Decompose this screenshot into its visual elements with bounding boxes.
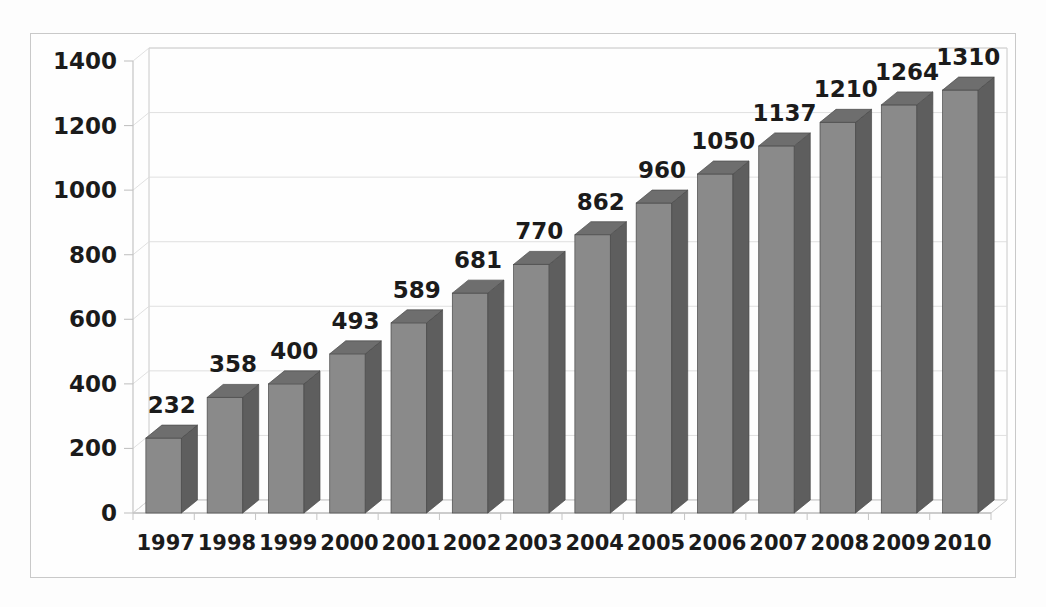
- bar-side-face: [181, 425, 197, 513]
- bar-front-face: [330, 354, 366, 513]
- bar-side-face: [427, 310, 443, 513]
- x-axis-category-label: 2001: [382, 531, 440, 555]
- x-axis-category-label: 2007: [749, 531, 807, 555]
- bar-column[interactable]: [820, 109, 872, 513]
- chart-plot-area: 0200400600800100012001400199719981999200…: [31, 34, 1015, 577]
- bar-side-face: [304, 371, 320, 513]
- bar-front-face: [391, 323, 427, 513]
- bar-column[interactable]: [943, 77, 995, 513]
- x-axis-category-label: 2008: [811, 531, 869, 555]
- x-axis-category-label: 2000: [320, 531, 378, 555]
- bar-front-face: [881, 105, 917, 513]
- bar-value-label: 1050: [691, 128, 755, 154]
- bar-side-face: [733, 161, 749, 513]
- bar-value-label: 960: [638, 157, 686, 183]
- x-axis-category-label: 2005: [627, 531, 685, 555]
- chart-floor: [133, 500, 1007, 513]
- y-axis-tick-label: 600: [69, 306, 117, 332]
- bar-value-label: 862: [577, 189, 625, 215]
- bar-front-face: [697, 174, 733, 513]
- bar-side-face: [978, 77, 994, 513]
- x-axis-tick-labels: 1997199819992000200120022003200420052006…: [133, 513, 992, 555]
- bar-value-label: 1310: [936, 44, 1000, 70]
- y-axis-tick-label: 1400: [53, 48, 117, 74]
- bar-side-face: [856, 109, 872, 513]
- bar-side-face: [365, 341, 381, 513]
- x-axis-category-label: 1999: [259, 531, 317, 555]
- y-axis-tick-label: 1000: [53, 177, 117, 203]
- bar-column[interactable]: [575, 222, 627, 513]
- bar-value-label: 400: [270, 338, 318, 364]
- bar-value-label: 1210: [814, 76, 878, 102]
- bar-front-face: [452, 293, 488, 513]
- bar-front-face: [636, 203, 672, 513]
- bar-value-label: 493: [331, 308, 379, 334]
- bar-column[interactable]: [697, 161, 749, 513]
- y-axis-tick-label: 400: [69, 371, 117, 397]
- bar-side-face: [243, 384, 259, 513]
- bar-side-face: [917, 92, 933, 513]
- bar-front-face: [268, 384, 304, 513]
- bar-value-label: 1137: [752, 100, 816, 126]
- axis-depth-connector: [133, 177, 149, 190]
- bar-column[interactable]: [452, 280, 504, 513]
- bar-front-face: [943, 90, 979, 513]
- bar-column[interactable]: [881, 92, 933, 513]
- x-axis-category-label: 2004: [565, 531, 623, 555]
- bar-column[interactable]: [330, 341, 382, 513]
- bar-side-face: [549, 251, 565, 513]
- y-axis-tick-label: 800: [69, 242, 117, 268]
- bar-column[interactable]: [268, 371, 320, 513]
- bar-column[interactable]: [514, 251, 566, 513]
- bar-side-face: [672, 190, 688, 513]
- bar-side-face: [488, 280, 504, 513]
- axis-depth-connector: [133, 242, 149, 255]
- x-axis-category-label: 2002: [443, 531, 501, 555]
- y-axis-tick-label: 1200: [53, 113, 117, 139]
- bar-front-face: [207, 397, 243, 513]
- bar-value-label: 770: [515, 218, 563, 244]
- bar-column[interactable]: [207, 384, 259, 513]
- x-axis-category-label: 2009: [872, 531, 930, 555]
- bar-side-face: [794, 133, 810, 513]
- y-axis-tick-label: 200: [69, 435, 117, 461]
- x-axis-category-label: 2010: [933, 531, 991, 555]
- x-axis-category-label: 2006: [688, 531, 746, 555]
- x-axis-category-label: 1998: [198, 531, 256, 555]
- bar-column[interactable]: [636, 190, 688, 513]
- bar-value-label: 1264: [875, 59, 939, 85]
- bar-value-label: 589: [393, 277, 441, 303]
- bar-side-face: [610, 222, 626, 513]
- bar-front-face: [514, 264, 550, 513]
- bar-column[interactable]: [759, 133, 811, 513]
- axis-depth-connector: [133, 113, 149, 126]
- x-axis-category-label: 1997: [136, 531, 194, 555]
- bar-front-face: [146, 438, 182, 513]
- bar-value-label: 681: [454, 247, 502, 273]
- bar-value-label: 232: [148, 392, 196, 418]
- y-axis-tick-labels: 0200400600800100012001400: [53, 48, 117, 526]
- bar-chart-3d: 0200400600800100012001400199719981999200…: [31, 34, 1017, 579]
- bar-front-face: [575, 235, 611, 513]
- axis-depth-connector: [133, 306, 149, 319]
- bar-column[interactable]: [146, 425, 198, 513]
- x-axis-category-label: 2003: [504, 531, 562, 555]
- bar-column[interactable]: [391, 310, 443, 513]
- bar-front-face: [820, 122, 856, 513]
- axis-depth-connector: [133, 48, 149, 61]
- axis-depth-connector: [133, 371, 149, 384]
- bar-front-face: [759, 146, 795, 513]
- y-axis-tick-label: 0: [101, 500, 117, 526]
- chart-frame: 0200400600800100012001400199719981999200…: [30, 33, 1016, 578]
- bar-value-label: 358: [209, 351, 257, 377]
